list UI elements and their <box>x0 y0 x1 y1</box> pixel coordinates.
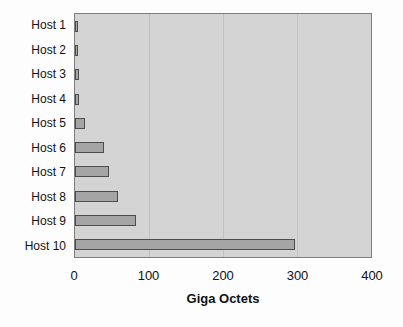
x-axis-tick-labels: 0100200300400 <box>74 268 372 283</box>
bar-host-5 <box>75 118 85 129</box>
x-tick-label: 100 <box>138 268 160 283</box>
y-tick-label: Host 8 <box>0 185 66 210</box>
bar-row <box>75 38 371 62</box>
bar-host-6 <box>75 142 104 153</box>
bar-row <box>75 208 371 232</box>
bar-row <box>75 233 371 257</box>
bar-row <box>75 135 371 159</box>
bar-host-10 <box>75 239 295 250</box>
x-tick-label: 200 <box>212 268 234 283</box>
bar-row <box>75 160 371 184</box>
bar-chart-figure: Host 1Host 2Host 3Host 4Host 5Host 6Host… <box>0 0 403 327</box>
y-tick-label: Host 10 <box>0 234 66 259</box>
y-tick-label: Host 5 <box>0 111 66 136</box>
plot-area <box>74 13 372 258</box>
bar-host-8 <box>75 191 118 202</box>
x-tick-label: 300 <box>287 268 309 283</box>
y-tick-label: Host 7 <box>0 160 66 185</box>
bar-row <box>75 111 371 135</box>
y-tick-label: Host 9 <box>0 209 66 234</box>
bar-row <box>75 14 371 38</box>
y-tick-label: Host 1 <box>0 13 66 38</box>
bar-host-4 <box>75 94 79 105</box>
bar-host-9 <box>75 215 136 226</box>
bar-host-1 <box>75 21 78 32</box>
bar-host-7 <box>75 166 109 177</box>
y-tick-label: Host 6 <box>0 136 66 161</box>
bar-row <box>75 184 371 208</box>
y-tick-label: Host 2 <box>0 38 66 63</box>
bars-container <box>75 14 371 257</box>
y-tick-label: Host 4 <box>0 87 66 112</box>
bar-row <box>75 87 371 111</box>
x-tick-label: 0 <box>70 268 77 283</box>
y-tick-label: Host 3 <box>0 62 66 87</box>
x-tick-label: 400 <box>361 268 383 283</box>
x-axis-title: Giga Octets <box>74 291 372 306</box>
bar-host-3 <box>75 69 79 80</box>
bar-row <box>75 63 371 87</box>
bar-host-2 <box>75 45 78 56</box>
y-axis-labels: Host 1Host 2Host 3Host 4Host 5Host 6Host… <box>0 13 66 258</box>
